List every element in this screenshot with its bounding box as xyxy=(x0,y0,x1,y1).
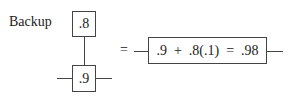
equivalent-system-box: .9 + .8(.1) = .98 xyxy=(148,37,267,64)
backup-reliability: .8 xyxy=(79,16,90,32)
input-line xyxy=(57,78,72,79)
equals-sign: = xyxy=(120,42,128,58)
backup-label: Backup xyxy=(9,14,52,30)
connector-vertical xyxy=(84,37,85,65)
result-input-line xyxy=(134,51,148,52)
backup-component-box: .8 xyxy=(72,11,96,37)
system-reliability-equation: .9 + .8(.1) = .98 xyxy=(156,43,258,59)
primary-reliability: .9 xyxy=(79,71,90,87)
output-line xyxy=(96,78,112,79)
result-output-line xyxy=(267,51,283,52)
primary-component-box: .9 xyxy=(72,65,96,92)
